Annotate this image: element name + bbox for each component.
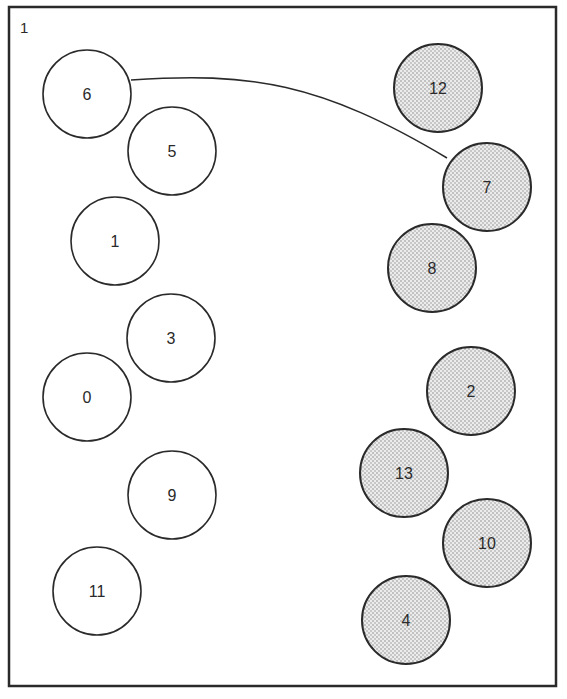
node-label: 13	[395, 465, 413, 482]
node-8: 8	[388, 224, 476, 312]
node-label: 8	[428, 260, 437, 277]
nodes-layer: 651309111278213104	[43, 44, 531, 664]
node-label: 0	[83, 389, 92, 406]
node-7: 7	[443, 143, 531, 231]
node-label: 2	[467, 383, 476, 400]
node-label: 6	[83, 86, 92, 103]
node-label: 11	[89, 583, 106, 600]
node-10: 10	[443, 499, 531, 587]
node-0: 0	[43, 353, 131, 441]
node-4: 4	[362, 576, 450, 664]
node-5: 5	[128, 107, 216, 195]
node-label: 12	[429, 80, 447, 97]
node-2: 2	[427, 347, 515, 435]
node-label: 5	[168, 143, 177, 160]
panel-label: 1	[20, 19, 28, 36]
node-label: 9	[168, 487, 177, 504]
node-3: 3	[127, 294, 215, 382]
node-label: 7	[483, 179, 492, 196]
network-diagram: 1 651309111278213104	[0, 0, 567, 699]
node-label: 3	[167, 330, 176, 347]
node-label: 1	[111, 233, 120, 250]
node-11: 11	[53, 547, 141, 635]
node-6: 6	[43, 50, 131, 138]
node-9: 9	[128, 451, 216, 539]
node-1: 1	[71, 197, 159, 285]
node-label: 4	[402, 612, 411, 629]
diagram-canvas: 1 651309111278213104	[0, 0, 567, 699]
node-13: 13	[360, 429, 448, 517]
node-label: 10	[478, 535, 496, 552]
node-12: 12	[394, 44, 482, 132]
